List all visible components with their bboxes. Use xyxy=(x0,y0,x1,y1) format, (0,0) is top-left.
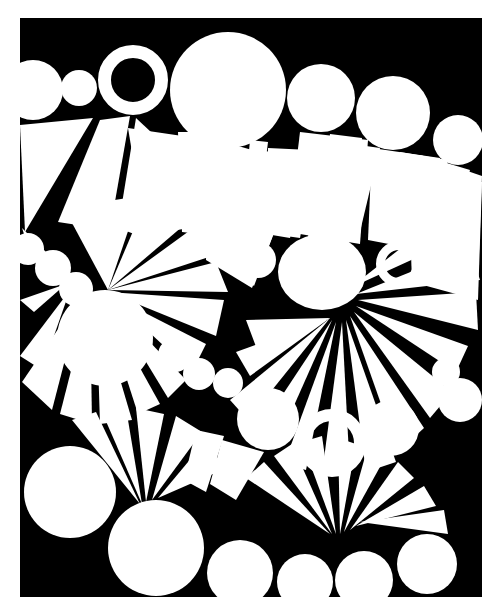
circle-top-large xyxy=(170,32,286,148)
artwork-svg xyxy=(0,0,503,614)
circle-mid-small-c xyxy=(213,368,243,398)
circle-low-left-large xyxy=(24,446,116,538)
circle-top-right-c xyxy=(433,115,483,165)
circle-mid-right-d xyxy=(438,378,482,422)
circle-mid-oval-large xyxy=(278,234,366,310)
circle-mid-small-b xyxy=(183,358,215,390)
circle-bottom-d xyxy=(397,534,457,594)
circle-mid-right-b xyxy=(363,400,419,456)
circle-low-center xyxy=(108,500,204,596)
fan-upper-right-b xyxy=(288,132,368,244)
circle-mid-left-large xyxy=(57,290,153,386)
circle-top-right-a xyxy=(287,64,355,132)
circle-bottom-a xyxy=(207,540,273,606)
circle-top-small-a xyxy=(61,70,97,106)
circle-top-right-b xyxy=(356,76,430,150)
circle-mid-right-a xyxy=(237,388,299,450)
artwork-canvas: Untitled Abstract Composition xyxy=(0,0,503,614)
circle-mid-center-b xyxy=(240,242,276,278)
